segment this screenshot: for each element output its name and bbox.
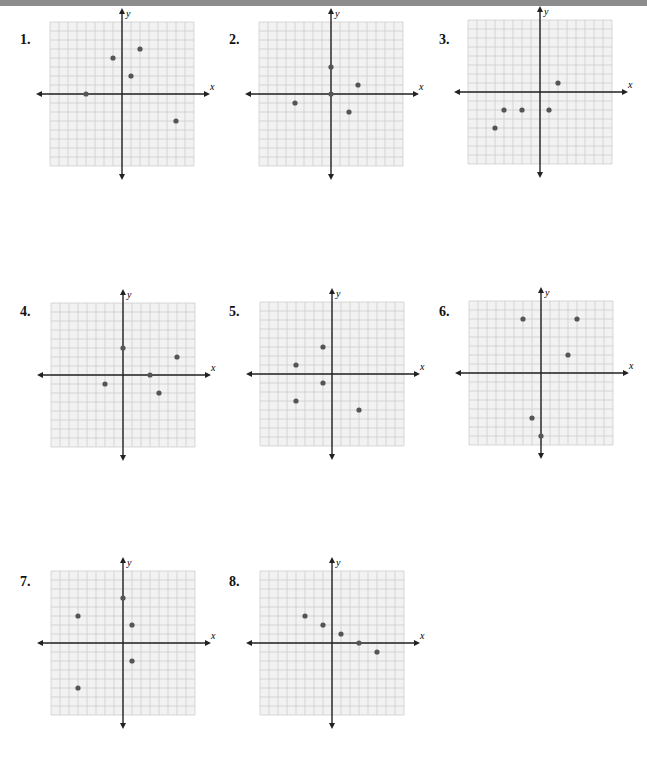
arrow-icon <box>328 8 334 14</box>
coordinate-plane: xy <box>37 289 225 461</box>
coordinate-plane: xy <box>454 6 642 178</box>
problem-number: 5. <box>229 304 240 320</box>
data-point <box>174 354 179 359</box>
data-point <box>302 613 307 618</box>
data-point <box>355 82 360 87</box>
data-point <box>293 362 298 367</box>
data-point <box>501 107 506 112</box>
arrow-icon <box>329 723 335 729</box>
coordinate-plane: xy <box>246 288 434 460</box>
problem-number: 2. <box>229 32 240 48</box>
coordinate-plane: xy <box>37 557 225 729</box>
data-point <box>338 631 343 636</box>
data-point <box>565 352 570 357</box>
data-point <box>356 640 361 645</box>
y-axis-label: y <box>544 287 550 298</box>
problem-number: 4. <box>20 304 31 320</box>
data-point <box>574 316 579 321</box>
data-point <box>328 91 333 96</box>
y-axis-label: y <box>126 289 132 300</box>
problem-number: 1. <box>20 32 31 48</box>
y-axis-label: y <box>126 557 132 568</box>
data-point <box>520 316 525 321</box>
y-axis-label: y <box>543 6 549 17</box>
data-point <box>128 73 133 78</box>
data-point <box>538 433 543 438</box>
problem-number: 8. <box>229 574 240 590</box>
data-point <box>320 622 325 627</box>
data-point <box>356 407 361 412</box>
data-point <box>529 415 534 420</box>
x-axis-label: x <box>210 630 216 641</box>
coordinate-plane: xy <box>246 557 434 729</box>
y-axis-label: y <box>334 8 340 19</box>
arrow-icon <box>538 287 544 293</box>
coordinate-plane: xy <box>455 287 643 459</box>
y-axis-label: y <box>335 288 341 299</box>
coordinate-plane: xy <box>245 8 433 180</box>
data-point <box>320 380 325 385</box>
data-point <box>293 398 298 403</box>
data-point <box>156 390 161 395</box>
data-point <box>147 372 152 377</box>
data-point <box>555 80 560 85</box>
data-point <box>374 649 379 654</box>
arrow-icon <box>537 172 543 178</box>
arrow-icon <box>245 91 251 97</box>
arrow-icon <box>120 557 126 563</box>
x-axis-label: x <box>419 630 425 641</box>
data-point <box>120 345 125 350</box>
arrow-icon <box>36 91 42 97</box>
x-axis-label: x <box>418 81 424 92</box>
x-axis-label: x <box>210 362 216 373</box>
data-point <box>83 91 88 96</box>
arrow-icon <box>246 371 252 377</box>
x-axis-label: x <box>627 79 633 90</box>
arrow-icon <box>537 6 543 12</box>
arrow-icon <box>120 723 126 729</box>
data-point <box>492 125 497 130</box>
y-axis-label: y <box>335 557 341 568</box>
arrow-icon <box>454 89 460 95</box>
data-point <box>546 107 551 112</box>
data-point <box>173 118 178 123</box>
arrow-icon <box>120 289 126 295</box>
arrow-icon <box>329 557 335 563</box>
y-axis-label: y <box>125 8 131 19</box>
problem-number: 6. <box>439 304 450 320</box>
data-point <box>129 658 134 663</box>
data-point <box>346 109 351 114</box>
arrow-icon <box>37 640 43 646</box>
arrow-icon <box>328 174 334 180</box>
arrow-icon <box>120 455 126 461</box>
problem-number: 3. <box>439 32 450 48</box>
data-point <box>75 613 80 618</box>
arrow-icon <box>329 454 335 460</box>
arrow-icon <box>119 174 125 180</box>
data-point <box>519 107 524 112</box>
data-point <box>328 64 333 69</box>
arrow-icon <box>246 640 252 646</box>
arrow-icon <box>538 453 544 459</box>
x-axis-label: x <box>209 81 215 92</box>
coordinate-plane: xy <box>36 8 224 180</box>
data-point <box>120 595 125 600</box>
data-point <box>292 100 297 105</box>
data-point <box>102 381 107 386</box>
data-point <box>129 622 134 627</box>
arrow-icon <box>329 288 335 294</box>
arrow-icon <box>455 370 461 376</box>
x-axis-label: x <box>419 361 425 372</box>
data-point <box>320 344 325 349</box>
data-point <box>75 685 80 690</box>
data-point <box>137 46 142 51</box>
arrow-icon <box>37 372 43 378</box>
arrow-icon <box>119 8 125 14</box>
x-axis-label: x <box>628 360 634 371</box>
data-point <box>110 55 115 60</box>
problem-number: 7. <box>20 574 31 590</box>
